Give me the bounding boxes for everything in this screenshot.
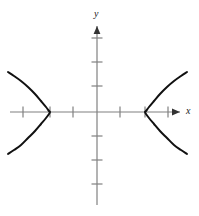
x-axis-label: x xyxy=(186,106,190,116)
hyperbola-right-branch xyxy=(145,72,187,154)
y-axis-arrowhead xyxy=(94,26,101,34)
plot-canvas xyxy=(0,0,199,216)
x-axis-arrowhead xyxy=(172,109,180,116)
hyperbola-left-branch xyxy=(8,72,50,154)
hyperbola-figure: y x xyxy=(0,0,199,216)
y-axis-label: y xyxy=(94,9,98,19)
